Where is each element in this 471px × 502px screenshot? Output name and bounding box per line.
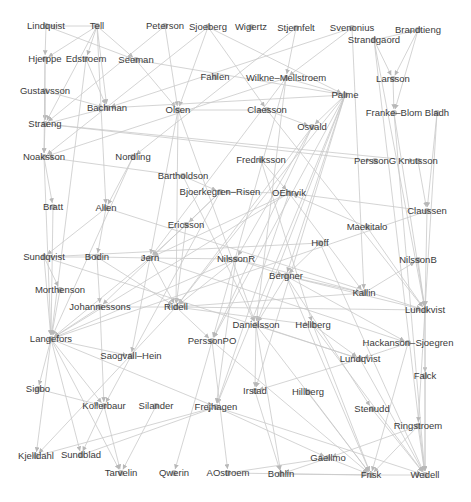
node-label-Kjelldahl[interactable]: Kjelldahl [18,451,54,461]
edge-OEhrvik-to-Frejhagen [217,193,289,403]
edge-Strandgaord-to-Larsson [374,40,391,75]
node-label-Sigbo[interactable]: Sigbo [26,384,50,394]
node-label-Kallin[interactable]: Kallin [352,288,375,298]
node-label-Ringstroem[interactable]: Ringstroem [394,421,443,431]
node-label-Bjoerkegren-Risen[interactable]: Bjoerkegren–Risen [180,187,261,197]
node-label-Stenudd[interactable]: Stenudd [354,404,389,414]
node-label-NilssonR[interactable]: NilssonR [217,254,255,264]
node-label-Maekitalo[interactable]: Maekitalo [347,222,388,232]
node-label-Hellberg[interactable]: Hellberg [295,320,330,330]
node-label-Osvald[interactable]: Osvald [297,122,327,132]
node-label-Frejhagen[interactable]: Frejhagen [195,402,238,412]
edge-Hellberg-to-Frisk [313,325,370,471]
node-label-Hackanson-Sjoegren[interactable]: Hackanson–Sjoegren [363,338,454,348]
node-label-Bohlin[interactable]: Bohlin [268,469,294,479]
node-label-Svenonius[interactable]: Svenonius [330,23,374,33]
node-label-Larsson[interactable]: Larsson [376,74,410,84]
edge-Olsen-to-Jern [151,110,178,254]
node-label-Bergner[interactable]: Bergner [269,271,303,281]
node-label-Bratt[interactable]: Bratt [43,202,63,212]
node-label-Noaksson[interactable]: Noaksson [23,152,65,162]
node-label-Bodin[interactable]: Bodin [85,252,109,262]
node-label-Morthenson[interactable]: Morthenson [35,285,85,295]
node-label-Irstad[interactable]: Irstad [243,386,267,396]
node-label-Kollerbaur[interactable]: Kollerbaur [82,401,125,411]
node-label-Bladh[interactable]: Bladh [425,108,449,118]
edge-Langefors-to-Sigbo [39,339,51,385]
node-label-Allen[interactable]: Allen [95,203,116,213]
edge-Seeman-to-Olsen [136,60,175,107]
node-label-Ericsson[interactable]: Ericsson [168,220,204,230]
edge-Sjoeberg-to-Claesson [208,27,265,107]
node-label-Wigertz[interactable]: Wigertz [235,22,267,32]
node-label-Qwerin[interactable]: Qwerin [159,468,189,478]
node-label-Brandtieng[interactable]: Brandtieng [395,25,441,35]
node-label-Ridell[interactable]: Ridell [164,302,188,312]
node-label-Johannessons[interactable]: Johannessons [69,302,130,312]
edge-Svenonius-to-Bachman [111,28,352,107]
node-label-Claesson[interactable]: Claesson [247,105,287,115]
edge-Langefors-to-Frejhagen [51,339,212,405]
node-label-Fredriksson[interactable]: Fredriksson [236,155,286,165]
edge-Jern-to-Langefors [54,258,150,336]
edge-Stenudd-to-Wedell [372,409,422,472]
node-label-Wilkne-Mellstroem[interactable]: Wilkne–Mellstroem [246,73,326,83]
node-label-Olsen[interactable]: Olsen [166,105,191,115]
node-label-Edstroem[interactable]: Edstroem [66,54,107,64]
node-label-Straeng[interactable]: Straeng [28,119,61,129]
edge-Kollerbaur-to-Sundblad [83,406,104,451]
node-label-Nordling[interactable]: Nordling [115,152,150,162]
node-label-Falck[interactable]: Falck [414,371,437,381]
node-label-Knutsson[interactable]: Knutsson [398,156,438,166]
node-label-Palme[interactable]: Palme [332,90,359,100]
edge-Sjoeberg-to-Noaksson [47,27,208,155]
node-label-Frisk[interactable]: Frisk [361,470,382,480]
node-label-PerssonPO[interactable]: PerssonPO [188,336,237,346]
node-label-Seeman[interactable]: Seeman [118,55,153,65]
node-label-Claussen[interactable]: Claussen [407,206,447,216]
edge-Sundblad-to-Frejhagen [81,408,212,455]
node-label-Tarvelin[interactable]: Tarvelin [105,468,138,478]
node-label-Lindquist[interactable]: Lindquist [27,21,65,31]
node-label-Wedell[interactable]: Wedell [411,470,440,480]
node-label-Hjerppe[interactable]: Hjerppe [28,54,61,64]
edge-Wilkne-Mellstroem-to-PerssonPO [213,78,286,337]
node-label-NilssonB[interactable]: NilssonB [399,255,437,265]
node-label-Lundkvist[interactable]: Lundkvist [405,305,445,315]
node-label-Saogvall-Hein[interactable]: Saogvall–Hein [100,351,161,361]
node-label-Langefors[interactable]: Langefors [30,334,72,344]
node-label-Gustavsson[interactable]: Gustavsson [20,86,70,96]
node-label-Hoff[interactable]: Hoff [311,238,328,248]
node-label-Sjoeberg[interactable]: Sjoeberg [189,22,227,32]
node-label-Strandgaord[interactable]: Strandgaord [348,35,400,45]
node-label-OEhrvik[interactable]: OEhrvik [272,188,306,198]
edge-Svenonius-to-Wilkne-Mellstroem [289,28,352,76]
node-label-Gaellmo[interactable]: Gaellmo [310,453,345,463]
node-label-Silander[interactable]: Silander [139,401,174,411]
edge-Knutsson-to-Claussen [418,161,426,207]
node-label-Bartholdson[interactable]: Bartholdson [158,171,209,181]
node-label-Stjernfelt[interactable]: Stjernfelt [277,23,315,33]
edge-Stjernfelt-to-Nordling [136,28,296,155]
edge-Lundkvist-to-Ringstroem [418,310,425,422]
edge-Stjernfelt-to-Wilkne-Mellstroem [287,28,296,74]
edge-Ridell-to-Lundkvist [176,307,421,310]
node-label-Tell[interactable]: Tell [90,21,104,31]
node-label-PerssonG[interactable]: PerssonG [354,156,396,166]
node-label-Sundqvist[interactable]: Sundqvist [23,252,65,262]
edge-Noaksson-to-Langefors [44,157,51,335]
node-label-Danielsson[interactable]: Danielsson [233,320,280,330]
node-label-Lundqvist[interactable]: Lundqvist [340,354,381,364]
edge-NilssonB-to-Lundkvist [418,260,424,306]
node-label-Jern[interactable]: Jern [141,253,159,263]
edge-Langefors-to-Sundblad [51,339,80,451]
node-label-Sundblad[interactable]: Sundblad [61,450,101,460]
edge-Frejhagen-to-Wedell [216,407,421,474]
node-label-Bachman[interactable]: Bachman [87,103,127,113]
node-label-Franke-Blom[interactable]: Franke–Blom [366,108,423,118]
edge-Sjoeberg-to-Olsen [179,27,208,106]
node-label-Hillberg[interactable]: Hillberg [292,387,324,397]
node-label-Fahlen[interactable]: Fahlen [200,72,229,82]
node-label-Peterson[interactable]: Peterson [146,21,184,31]
node-label-AOstroem[interactable]: AOstroem [207,468,250,478]
